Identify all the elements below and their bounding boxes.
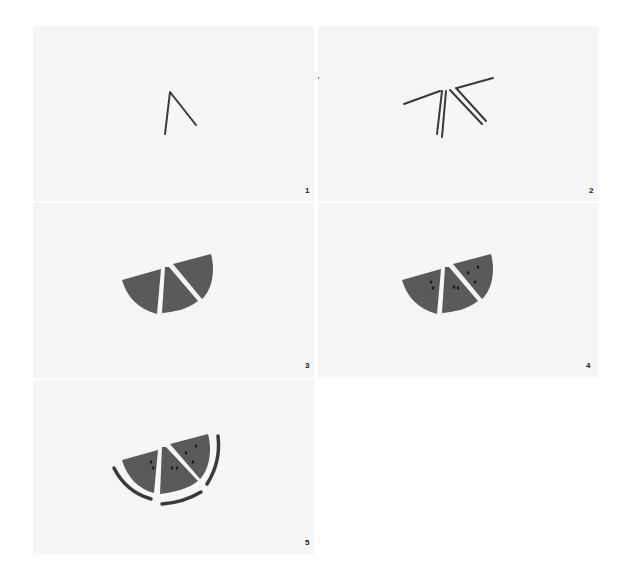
- step-number: 3: [305, 361, 309, 370]
- step-panel-1: 1: [33, 26, 314, 201]
- inverted-v-sketch: [33, 26, 314, 201]
- step-panel-3: 3: [33, 203, 314, 378]
- step-number: 1: [305, 186, 309, 195]
- slice-lines-sketch: [318, 26, 598, 201]
- step-panel-2: 2: [318, 26, 598, 201]
- step-number: 5: [305, 538, 309, 547]
- step-panel-4: 4: [318, 203, 598, 378]
- step-number: 4: [586, 361, 590, 370]
- wedges-with-seeds-sketch: [318, 203, 598, 378]
- step-panel-5: 5: [33, 380, 314, 555]
- shaded-wedges-sketch: [33, 203, 314, 378]
- complete-watermelon-sketch: [33, 380, 314, 555]
- step-number: 2: [589, 186, 593, 195]
